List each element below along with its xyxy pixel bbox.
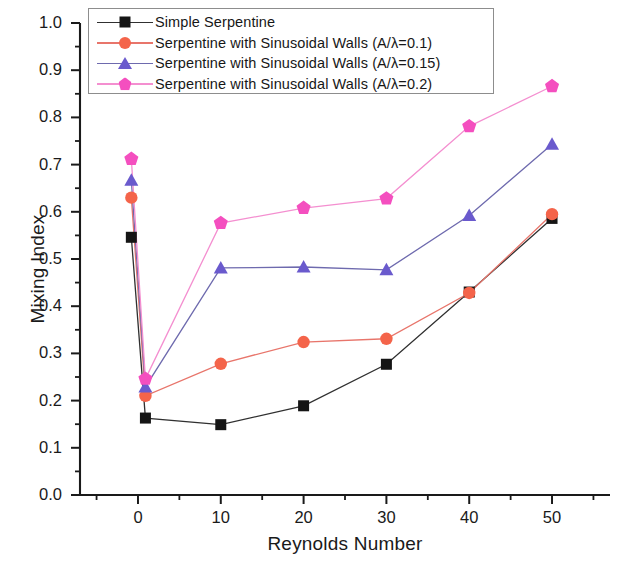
y-tick-label: 0.7 xyxy=(16,155,62,174)
x-tick-label: 20 xyxy=(284,508,324,527)
y-tick-label: 0.1 xyxy=(16,438,62,457)
y-tick-label: 0.0 xyxy=(16,485,62,504)
x-tick-label: 10 xyxy=(201,508,241,527)
x-tick-label: 40 xyxy=(449,508,489,527)
legend-key-pentagon-icon xyxy=(95,74,155,94)
y-tick-label: 0.9 xyxy=(16,60,62,79)
mixing-index-chart: Mixing Index Reynolds Number 0.00.10.20.… xyxy=(0,0,624,568)
y-tick-label: 0.3 xyxy=(16,343,62,362)
y-tick-label: 0.2 xyxy=(16,391,62,410)
x-axis-title: Reynolds Number xyxy=(185,533,505,555)
x-tick-label: 0 xyxy=(118,508,158,527)
legend-item-simple-serpentine: Simple Serpentine xyxy=(95,12,487,33)
legend-item-sinusoidal-02: Serpentine with Sinusoidal Walls (A/λ=0.… xyxy=(95,74,487,95)
legend-key-circle-icon xyxy=(95,33,155,53)
y-tick-label: 0.6 xyxy=(16,202,62,221)
legend-item-sinusoidal-01: Serpentine with Sinusoidal Walls (A/λ=0.… xyxy=(95,33,487,54)
x-tick-label: 30 xyxy=(366,508,406,527)
y-tick-label: 0.8 xyxy=(16,107,62,126)
legend-key-square-icon xyxy=(95,12,155,32)
y-tick-label: 1.0 xyxy=(16,13,62,32)
legend-key-triangle-icon xyxy=(95,53,155,73)
legend-label-3: Serpentine with Sinusoidal Walls (A/λ=0.… xyxy=(155,76,432,92)
chart-legend: Simple Serpentine Serpentine with Sinuso… xyxy=(88,8,494,94)
legend-item-sinusoidal-015: Serpentine with Sinusoidal Walls (A/λ=0.… xyxy=(95,53,487,74)
legend-label-1: Serpentine with Sinusoidal Walls (A/λ=0.… xyxy=(155,35,432,51)
y-tick-label: 0.4 xyxy=(16,296,62,315)
legend-label-0: Simple Serpentine xyxy=(155,14,275,30)
legend-label-2: Serpentine with Sinusoidal Walls (A/λ=0.… xyxy=(155,55,440,71)
x-tick-label: 50 xyxy=(532,508,572,527)
y-tick-label: 0.5 xyxy=(16,249,62,268)
